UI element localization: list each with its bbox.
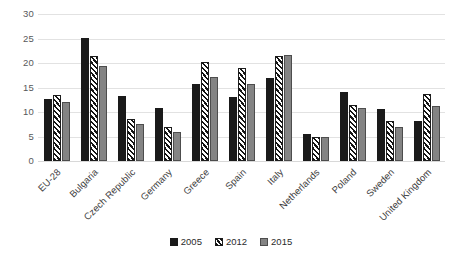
- legend-label: 2012: [226, 236, 247, 247]
- bar-group: [223, 14, 260, 161]
- legend-swatch-icon-2005: [170, 238, 178, 246]
- x-tick-label-greece: Greece: [181, 165, 213, 197]
- bar-group: [149, 14, 186, 161]
- legend-swatch-icon-2015: [260, 238, 268, 246]
- bar-2005-bulgaria: [81, 38, 89, 161]
- bar-group: [38, 14, 75, 161]
- y-tick-label-0: 0: [4, 155, 34, 166]
- bar-group: [371, 14, 408, 161]
- bar-2012-sweden: [386, 121, 394, 161]
- bar-group: [260, 14, 297, 161]
- bar-group: [334, 14, 371, 161]
- bar-2015-greece: [210, 77, 218, 161]
- bar-2015-poland: [358, 108, 366, 161]
- legend-item-2005[interactable]: 2005: [170, 236, 202, 247]
- bar-chart: 051015202530 EU-28BulgariaCzech Republic…: [0, 0, 462, 262]
- x-tick-label-spain: Spain: [223, 165, 250, 192]
- bar-2012-bulgaria: [90, 56, 98, 161]
- bar-2012-poland: [349, 105, 357, 161]
- x-label-cell: Spain: [223, 161, 260, 231]
- x-label-cell: Netherlands: [297, 161, 334, 231]
- x-label-cell: EU-28: [38, 161, 75, 231]
- y-tick-label-10: 10: [4, 106, 34, 117]
- bar-2012-spain: [238, 68, 246, 161]
- legend-label: 2015: [271, 236, 292, 247]
- bar-2012-germany: [164, 127, 172, 161]
- bar-2012-netherlands: [312, 137, 320, 161]
- bar-group: [75, 14, 112, 161]
- x-tick-label-poland: Poland: [330, 165, 361, 196]
- bar-groups: [38, 14, 445, 161]
- bar-2012-czech-republic: [127, 119, 135, 161]
- x-axis-labels: EU-28BulgariaCzech RepublicGermanyGreece…: [38, 161, 445, 231]
- bar-2012-eu-28: [53, 95, 61, 161]
- bar-2015-united-kingdom: [432, 106, 440, 161]
- legend-swatch-icon-2012: [215, 238, 223, 246]
- bar-2015-spain: [247, 84, 255, 161]
- bar-group: [297, 14, 334, 161]
- x-label-cell: Germany: [149, 161, 186, 231]
- bar-2012-united-kingdom: [423, 94, 431, 161]
- y-tick-label-5: 5: [4, 131, 34, 142]
- legend-item-2012[interactable]: 2012: [215, 236, 247, 247]
- y-tick-label-30: 30: [4, 8, 34, 19]
- bar-2015-czech-republic: [136, 124, 144, 161]
- y-tick-label-15: 15: [4, 82, 34, 93]
- bar-2015-italy: [284, 55, 292, 161]
- bar-2012-greece: [201, 62, 209, 161]
- bar-2005-spain: [229, 97, 237, 161]
- x-label-cell: Poland: [334, 161, 371, 231]
- x-label-cell: United Kingdom: [408, 161, 445, 231]
- x-tick-label-italy: Italy: [264, 165, 286, 187]
- bar-group: [408, 14, 445, 161]
- x-label-cell: Greece: [186, 161, 223, 231]
- bar-group: [186, 14, 223, 161]
- bar-2005-eu-28: [44, 99, 52, 161]
- bar-2005-czech-republic: [118, 96, 126, 161]
- bar-2015-eu-28: [62, 102, 70, 161]
- bar-2005-italy: [266, 78, 274, 161]
- bar-2005-poland: [340, 92, 348, 161]
- chart-legend: 200520122015: [0, 236, 462, 247]
- bar-2005-sweden: [377, 109, 385, 161]
- legend-label: 2005: [181, 236, 202, 247]
- bar-group: [112, 14, 149, 161]
- bar-2012-italy: [275, 56, 283, 161]
- x-tick-label-eu-28: EU-28: [36, 165, 65, 194]
- bar-2015-netherlands: [321, 137, 329, 162]
- y-axis: 051015202530: [0, 14, 34, 161]
- bar-2005-united-kingdom: [414, 121, 422, 161]
- bar-2005-germany: [155, 108, 163, 161]
- y-tick-label-25: 25: [4, 33, 34, 44]
- bar-2005-netherlands: [303, 134, 311, 161]
- bar-2015-bulgaria: [99, 66, 107, 161]
- y-tick-label-20: 20: [4, 57, 34, 68]
- bar-2005-greece: [192, 84, 200, 161]
- legend-item-2015[interactable]: 2015: [260, 236, 292, 247]
- bar-2015-sweden: [395, 127, 403, 161]
- bar-2015-germany: [173, 132, 181, 161]
